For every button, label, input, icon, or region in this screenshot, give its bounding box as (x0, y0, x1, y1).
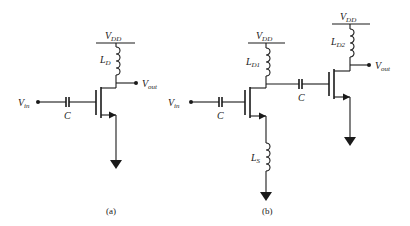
nmos-transistor-1-icon (245, 87, 266, 120)
vdd1-label: VDD (256, 30, 272, 43)
vout-label: Vout (142, 78, 158, 91)
circuit-figure: VDD LD Vout Vin C (a) (0, 0, 410, 226)
input-capacitor-icon (219, 97, 222, 107)
vdd-label: VDD (105, 30, 121, 43)
nmos-transistor-icon (96, 87, 116, 119)
capacitor-label: C (64, 110, 71, 121)
vout-label: Vout (375, 60, 391, 73)
inductor-ls-label: LS (250, 152, 261, 165)
vout-node-icon (134, 81, 138, 85)
ground-icon (110, 160, 122, 169)
coupling-capacitor-icon (299, 79, 302, 89)
vin-label: Vin (168, 97, 180, 110)
inductor-ls-icon (266, 143, 270, 171)
inductor-ld-icon (116, 47, 120, 75)
panel-a-caption: (a) (106, 206, 116, 216)
ground-2-icon (344, 137, 356, 146)
inductor-ld-label: LD (99, 54, 111, 67)
inductor-ld2-label: LD2 (330, 36, 346, 49)
panel-a-common-source-amplifier: VDD LD Vout Vin C (a) (18, 30, 158, 216)
coupling-capacitor-label: C (298, 92, 305, 103)
inductor-ld2-icon (350, 29, 354, 57)
panel-b-caption: (b) (262, 206, 273, 216)
input-capacitor-label: C (217, 110, 224, 121)
capacitor-icon (66, 97, 69, 107)
panel-b-cascaded-amplifier: VDD LD1 Vin C LS (168, 11, 391, 216)
inductor-ld1-label: LD1 (245, 56, 260, 69)
vdd2-label: VDD (340, 11, 356, 24)
ground-1-icon (260, 192, 272, 201)
vin-label: Vin (18, 97, 30, 110)
nmos-transistor-2-icon (329, 69, 350, 101)
inductor-ld1-icon (266, 48, 270, 76)
vout-node-icon (367, 63, 371, 67)
